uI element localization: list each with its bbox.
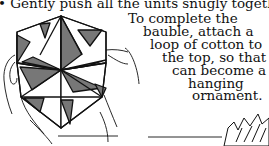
completion-line-7: ornament. <box>192 89 263 102</box>
step-text: • Gently push all the units snugly toget… <box>0 0 269 10</box>
